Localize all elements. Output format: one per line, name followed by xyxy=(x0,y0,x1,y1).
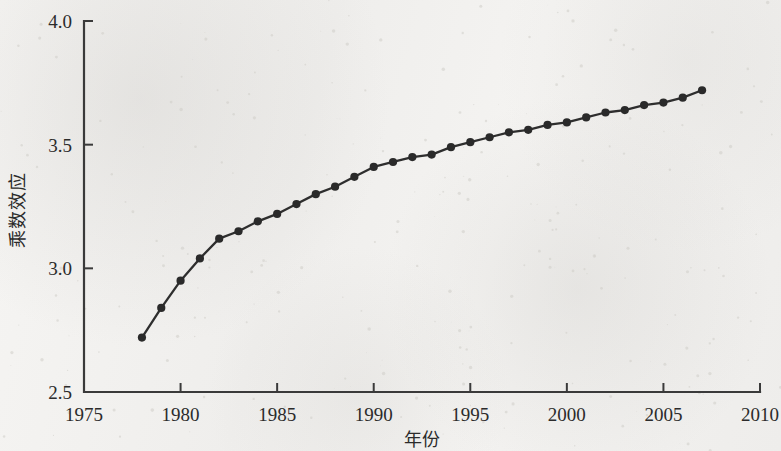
paper-speck xyxy=(162,255,164,257)
paper-speck xyxy=(331,82,333,84)
paper-speck xyxy=(424,139,427,142)
paper-speck xyxy=(10,351,13,354)
paper-speck xyxy=(580,64,583,67)
paper-speck xyxy=(712,338,714,340)
paper-speck xyxy=(448,289,451,292)
paper-speck xyxy=(466,198,469,201)
paper-speck xyxy=(320,31,321,32)
paper-speck xyxy=(740,111,743,114)
paper-speck xyxy=(663,131,664,132)
paper-speck xyxy=(55,56,58,59)
paper-speck xyxy=(609,395,612,398)
paper-speck xyxy=(719,151,723,155)
paper-speck xyxy=(194,336,196,338)
paper-speck xyxy=(439,194,440,195)
paper-speck xyxy=(755,292,757,294)
paper-speck xyxy=(632,48,635,51)
paper-speck xyxy=(458,329,461,332)
paper-speck xyxy=(555,83,558,86)
paper-speck xyxy=(204,317,206,319)
paper-speck xyxy=(197,287,198,288)
paper-speck xyxy=(466,348,468,350)
paper-speck xyxy=(507,175,509,177)
paper-speck xyxy=(442,191,444,193)
paper-speck xyxy=(350,386,351,387)
paper-speck xyxy=(143,146,144,147)
data-point xyxy=(215,235,223,243)
paper-speck xyxy=(179,108,182,111)
paper-speck xyxy=(565,332,567,334)
paper-speck xyxy=(250,271,253,274)
paper-speck xyxy=(462,382,465,385)
data-point xyxy=(486,133,494,141)
paper-speck xyxy=(771,134,773,136)
paper-speck xyxy=(248,93,250,95)
paper-speck xyxy=(552,229,554,231)
paper-speck xyxy=(217,89,219,91)
paper-speck xyxy=(624,277,626,279)
series-markers-multiplier-effect xyxy=(138,86,706,342)
paper-speck xyxy=(523,264,525,266)
paper-speck xyxy=(663,363,666,366)
x-tick-label: 1995 xyxy=(451,404,489,425)
paper-speck xyxy=(99,120,101,122)
paper-speck xyxy=(600,287,603,290)
paper-speck xyxy=(537,163,540,166)
paper-speck xyxy=(718,267,720,269)
paper-speck xyxy=(434,321,436,323)
paper-speck xyxy=(462,230,465,233)
paper-speck xyxy=(498,104,499,105)
paper-speck xyxy=(583,268,585,270)
paper-speck xyxy=(166,359,169,362)
paper-speck xyxy=(679,443,680,444)
paper-speck xyxy=(21,144,23,146)
paper-speck xyxy=(366,352,367,353)
paper-speck xyxy=(310,417,312,419)
paper-speck xyxy=(332,196,333,197)
paper-speck xyxy=(346,42,349,45)
paper-speck xyxy=(750,320,752,322)
data-point xyxy=(543,121,551,129)
paper-speck xyxy=(40,358,43,361)
paper-speck xyxy=(702,393,703,394)
paper-speck xyxy=(379,38,382,41)
paper-speck xyxy=(760,100,763,103)
paper-speck xyxy=(187,253,189,255)
paper-speck xyxy=(549,258,551,260)
paper-speck xyxy=(753,85,755,87)
paper-speck xyxy=(246,321,248,323)
data-point xyxy=(563,118,571,126)
paper-speck xyxy=(77,280,78,281)
paper-speck xyxy=(17,45,20,48)
paper-speck xyxy=(485,120,487,122)
paper-speck xyxy=(572,270,575,273)
paper-speck xyxy=(181,23,182,24)
chart-figure: 2.53.03.54.0 197519801985199019952000200… xyxy=(0,0,781,451)
y-tick-label: 2.5 xyxy=(48,382,72,403)
paper-speck xyxy=(469,331,470,332)
paper-speck xyxy=(755,234,757,236)
paper-speck xyxy=(271,34,273,36)
paper-speck xyxy=(221,161,223,163)
paper-speck xyxy=(111,173,113,175)
paper-speck xyxy=(36,166,38,168)
paper-speck xyxy=(510,295,513,298)
paper-speck xyxy=(40,23,43,26)
data-point xyxy=(350,173,358,181)
paper-speck xyxy=(469,326,472,329)
paper-speck xyxy=(511,402,514,405)
paper-speck xyxy=(208,259,211,262)
paper-speck xyxy=(348,15,350,17)
paper-speck xyxy=(459,346,462,349)
paper-speck xyxy=(434,216,435,217)
paper-speck xyxy=(151,408,155,412)
paper-speck xyxy=(429,405,431,407)
data-point xyxy=(505,128,513,136)
paper-speck xyxy=(709,342,711,344)
paper-speck xyxy=(581,160,584,163)
paper-speck xyxy=(702,104,703,105)
paper-speck xyxy=(400,416,402,418)
paper-speck xyxy=(655,239,657,241)
paper-speck xyxy=(629,117,632,120)
paper-speck xyxy=(537,204,538,205)
